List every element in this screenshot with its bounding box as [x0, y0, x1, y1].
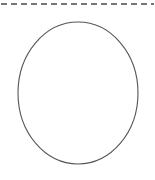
- geometry-figure: [0, 0, 155, 180]
- figure-canvas: [0, 0, 155, 180]
- canvas-background: [0, 0, 155, 180]
